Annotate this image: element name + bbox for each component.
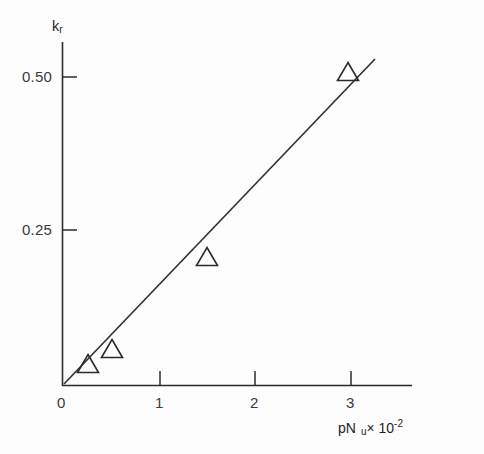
x-axis-title: pNu× 10-2 bbox=[338, 420, 403, 436]
figure-canvas: kr 0.50 0.25 0 1 2 3 pNu× 10-2 bbox=[0, 0, 484, 454]
y-axis-title: kr bbox=[52, 18, 63, 34]
x-tick-label-3: 3 bbox=[346, 394, 355, 411]
x-tick-label-2: 2 bbox=[250, 394, 259, 411]
data-point-marker bbox=[338, 63, 359, 81]
x-axis-title-subscript: u bbox=[361, 426, 367, 437]
y-axis-title-subscript: r bbox=[59, 24, 62, 35]
y-tick-label-025: 0.25 bbox=[0, 221, 52, 238]
x-axis-title-multiplier: × 10 bbox=[366, 420, 394, 436]
data-point-marker bbox=[78, 355, 99, 373]
plot-area bbox=[0, 0, 484, 454]
x-axis-title-exponent: -2 bbox=[394, 418, 403, 429]
y-tick-label-050: 0.50 bbox=[0, 68, 52, 85]
x-tick-label-1: 1 bbox=[155, 394, 164, 411]
x-tick-label-0: 0 bbox=[57, 394, 66, 411]
linear-fit-line bbox=[64, 59, 375, 384]
data-point-marker bbox=[197, 248, 218, 266]
x-axis-title-base: pN bbox=[338, 420, 356, 436]
